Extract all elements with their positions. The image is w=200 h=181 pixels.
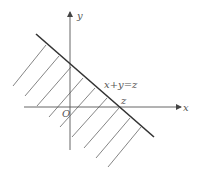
hatch-line (25, 56, 59, 96)
origin-label: O (62, 108, 70, 119)
hatch-region (13, 45, 141, 167)
hatch-line (37, 67, 71, 106)
hatch-line (96, 118, 130, 158)
hatch-line (84, 108, 119, 148)
diagram-canvas: y x O x+y=z z (0, 0, 200, 181)
y-axis-label: y (76, 10, 83, 21)
x-axis-label: x (183, 102, 189, 113)
hatch-line (72, 98, 107, 137)
intercept-label: z (120, 95, 127, 106)
line-equation-label: x+y=z (104, 79, 138, 90)
hatch-line (108, 127, 141, 167)
hatch-line (13, 45, 46, 86)
